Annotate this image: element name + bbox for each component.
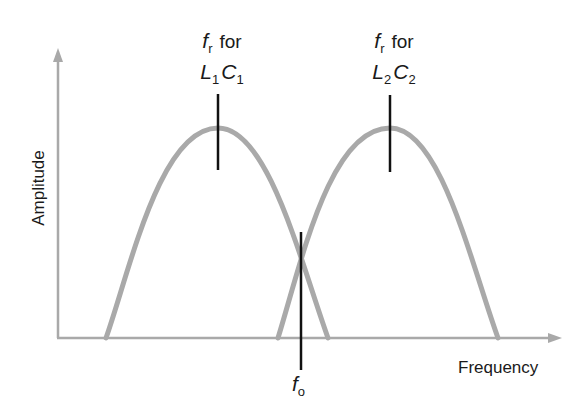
f-subscript: r	[380, 41, 384, 56]
c-subscript: 2	[408, 72, 415, 87]
l-symbol: L	[372, 60, 384, 83]
f-symbol: f	[292, 372, 298, 395]
c-subscript: 1	[236, 72, 243, 87]
x-axis-label: Frequency	[458, 358, 538, 378]
resonance-diagram	[0, 0, 586, 414]
peak-label-l1c1: frfor L1C1	[182, 28, 262, 88]
for-text: for	[220, 31, 242, 52]
for-text: for	[392, 31, 414, 52]
c-symbol: C	[393, 60, 408, 83]
x-axis-arrow-icon	[548, 333, 562, 343]
curve-l2c2	[278, 128, 498, 338]
y-axis-arrow-icon	[53, 48, 63, 62]
y-axis-label: Amplitude	[29, 143, 49, 233]
peak-label-l2c2: frfor L2C2	[354, 28, 434, 88]
l-subscript: 2	[384, 72, 391, 87]
l-symbol: L	[200, 60, 212, 83]
crossover-label-fo: fo	[292, 372, 305, 396]
f-subscript: o	[298, 384, 305, 399]
l-subscript: 1	[212, 72, 219, 87]
c-symbol: C	[221, 60, 236, 83]
f-subscript: r	[208, 41, 212, 56]
